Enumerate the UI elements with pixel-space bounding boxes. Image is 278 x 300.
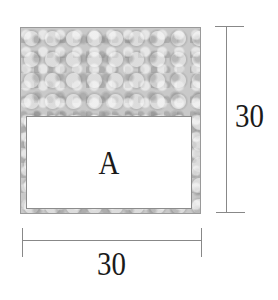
horizontal-dimension-left-tick	[22, 228, 23, 257]
vertical-dimension-bottom-tick	[216, 212, 245, 213]
region-label-a: A	[38, 116, 179, 209]
width-label: 30	[97, 247, 126, 281]
vertical-dimension-line	[226, 26, 227, 213]
vertical-dimension-top-tick	[215, 26, 244, 27]
height-label: 30	[235, 99, 264, 133]
horizontal-dimension-line	[22, 240, 202, 241]
horizontal-dimension-right-tick	[201, 228, 202, 257]
